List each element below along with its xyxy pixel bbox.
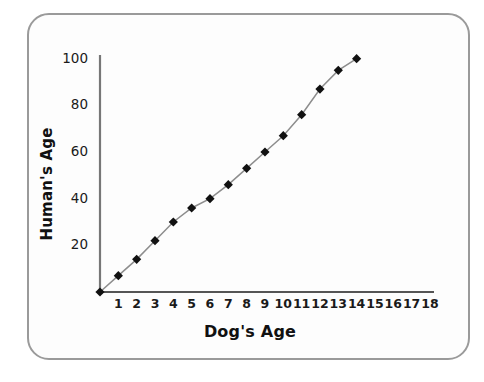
data-point-marker [352,54,361,63]
plot-area [0,0,484,382]
chart-figure: Human's Age Dog's Age 20406080100 123456… [0,0,484,382]
axis-lines [100,55,434,292]
data-markers [95,54,361,297]
